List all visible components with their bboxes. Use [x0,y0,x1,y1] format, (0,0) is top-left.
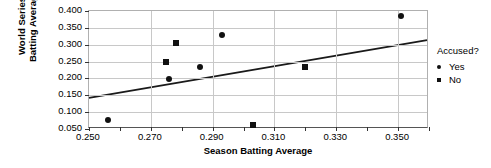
x-axis-tick-label: 0.330 [315,131,355,142]
data-point-no [173,40,179,46]
gridline-horizontal [89,45,427,46]
legend-item-label: No [449,74,461,85]
y-axis-tick-label: 0.400 [40,5,82,15]
y-axis-tick-label: 0.100 [40,106,82,116]
y-axis-tick [85,95,89,96]
gridline-horizontal [89,95,427,96]
plot-area [88,10,428,128]
y-axis-tick-label: 0.150 [40,89,82,99]
legend: Accused? YesNo [437,45,491,86]
data-point-no [250,122,256,128]
y-axis-tick [85,62,89,63]
gridline-vertical [274,11,275,127]
gridline-vertical [336,11,337,127]
x-axis-tick-labels: 0.2500.2700.2900.3100.3300.350 [88,131,428,143]
legend-title: Accused? [437,45,491,56]
square-marker-icon [437,78,449,82]
y-axis-tick-label: 0.200 [40,72,82,82]
data-point-no [163,59,169,65]
y-axis-tick [85,112,89,113]
y-axis-tick [85,78,89,79]
gridline-horizontal [89,28,427,29]
gridline-vertical [398,11,399,127]
y-axis-tick-label: 0.250 [40,56,82,66]
data-point-no [302,64,308,70]
gridline-horizontal [89,62,427,63]
x-axis-tick-label: 0.290 [192,131,232,142]
legend-item-yes[interactable]: Yes [437,60,491,73]
x-axis-tick-label: 0.350 [377,131,417,142]
circle-marker-icon [437,65,449,69]
legend-item-label: Yes [449,61,465,72]
data-point-yes [105,117,111,123]
gridline-horizontal [89,78,427,79]
y-axis-tick [85,11,89,12]
gridline-vertical [213,11,214,127]
scatter-chart: World Series Batting Average 0.4000.3500… [0,0,491,168]
x-axis-tick-minor [429,127,430,131]
legend-item-no[interactable]: No [437,73,491,86]
y-axis-tick-label: 0.350 [40,22,82,32]
x-axis-tick-label: 0.270 [130,131,170,142]
y-axis-tick [85,45,89,46]
y-axis-tick-label: 0.300 [40,39,82,49]
x-axis-tick-label: 0.250 [68,131,108,142]
legend-entries: YesNo [437,60,491,86]
y-axis-tick [85,28,89,29]
gridline-vertical [151,11,152,127]
x-axis-tick-label: 0.310 [253,131,293,142]
x-axis-title: Season Batting Average [88,145,428,156]
y-axis-tick-labels: 0.4000.3500.3000.2500.2000.1500.1000.050 [36,0,82,168]
gridline-horizontal [89,112,427,113]
data-point-yes [197,64,203,70]
